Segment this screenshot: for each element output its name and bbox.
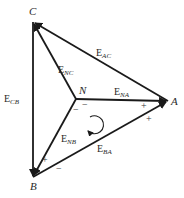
edge-label-na: ENA <box>114 86 130 99</box>
node-label-a: A <box>170 95 178 107</box>
loop-arrow-icon <box>88 116 104 134</box>
sign-minus-n-right: − <box>82 99 88 110</box>
edge-label-ac: EAC <box>96 47 111 60</box>
edge-label-nc: ENC <box>58 64 74 77</box>
node-label-b: B <box>30 180 37 192</box>
polarity-signs: − − + + + − <box>42 99 152 174</box>
edge-label-nb: ENB <box>61 133 77 146</box>
sign-minus-n-left: − <box>73 104 79 115</box>
edge-na <box>76 99 166 101</box>
edge-label-cb: ECB <box>4 93 20 106</box>
phasor-diagram: C A B N EAC ENC ECB ENA ENB EBA − − + + … <box>0 0 184 198</box>
edge-labels: EAC ENC ECB ENA ENB EBA <box>4 47 130 156</box>
node-label-n: N <box>78 84 87 96</box>
sign-minus-b: − <box>56 163 62 174</box>
edge-label-ba: EBA <box>97 143 112 156</box>
sign-plus-a-upper: + <box>141 100 147 111</box>
node-label-c: C <box>29 5 37 17</box>
sign-plus-a-lower: + <box>146 113 152 124</box>
sign-plus-b: + <box>42 154 48 165</box>
